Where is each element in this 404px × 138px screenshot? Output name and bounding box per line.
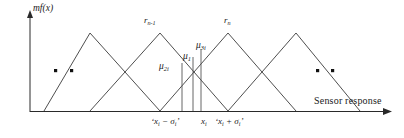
tick-label-x-minus-sigma-tail: ’	[176, 116, 179, 126]
x-axis	[30, 108, 392, 115]
membership-label-mu-3i: μ3i	[196, 41, 206, 51]
x-axis-label: Sensor response	[314, 96, 382, 106]
fuzzy-set-label-r-n: rn	[224, 16, 231, 26]
tick-label-x-minus-sigma-main: ‘x	[151, 116, 158, 126]
tick-label-x-minus-sigma: ‘xi − σi’	[151, 117, 179, 127]
tick-label-x-center: xi	[201, 117, 207, 127]
right-ellipsis-dots	[316, 69, 334, 72]
fuzzy-membership-figure: mf(x) Sensor response rn-1 rn μ2i μ1 μ3i…	[0, 0, 404, 138]
tick-label-x-minus-sigma-op: − σ	[160, 116, 175, 126]
membership-label-mu-2i: μ2i	[159, 62, 169, 72]
tick-label-x-plus-sigma-tail: ’	[240, 116, 243, 126]
fuzzy-set-label-r-n-minus-1-sub: n-1	[148, 20, 156, 26]
membership-label-mu-3i-sub: 3i	[201, 44, 206, 51]
membership-label-mu-1i-sub: 1	[188, 55, 191, 62]
membership-label-mu-2i-sub: 2i	[164, 65, 169, 72]
tick-label-x-plus-sigma-op: + σ	[224, 116, 239, 126]
fuzzy-set-label-r-n-sub: n	[228, 20, 231, 26]
y-axis-label: mf(x)	[33, 4, 53, 14]
tick-label-x-center-sub1: i	[205, 121, 207, 127]
tick-label-x-plus-sigma-main: ‘x	[215, 116, 222, 126]
left-ellipsis-dots	[54, 69, 73, 72]
y-axis	[27, 10, 33, 112]
membership-label-mu-1i: μ1	[183, 52, 191, 62]
fuzzy-set-label-r-n-minus-1: rn-1	[144, 16, 156, 26]
tick-label-x-plus-sigma: ‘xi + σi’	[215, 117, 243, 127]
